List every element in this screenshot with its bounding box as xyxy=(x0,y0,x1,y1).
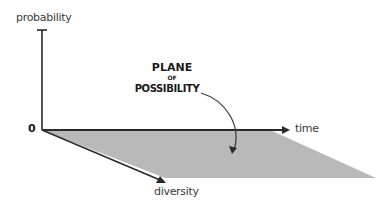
time-axis-label: time xyxy=(295,122,319,135)
diagram-canvas xyxy=(0,0,389,215)
annotation-possibility: POSSIBILITY xyxy=(132,84,202,94)
probability-axis-label: probability xyxy=(16,11,71,24)
annotation-plane: PLANE xyxy=(143,62,201,73)
plane-of-possibility xyxy=(42,130,376,178)
diversity-axis-label: diversity xyxy=(154,185,199,198)
annotation-of: OF xyxy=(143,75,201,81)
origin-label: 0 xyxy=(28,122,36,135)
time-arrowhead-icon xyxy=(282,126,290,134)
